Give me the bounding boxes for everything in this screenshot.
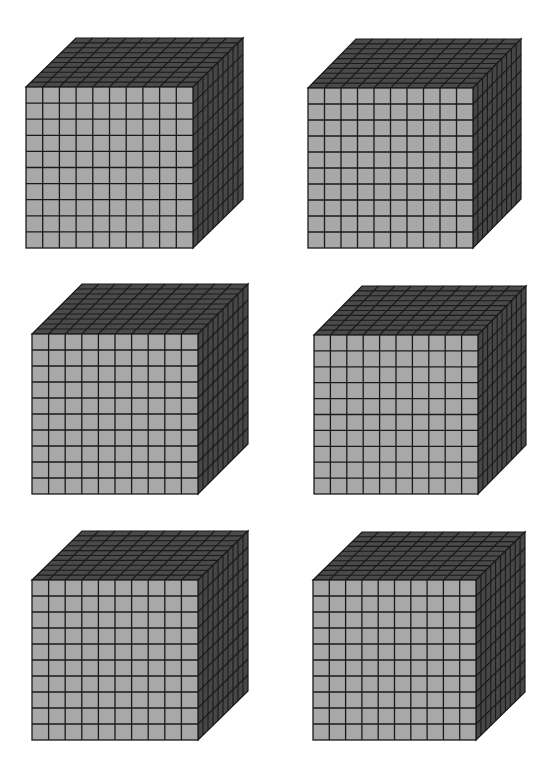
worksheet bbox=[0, 0, 552, 783]
